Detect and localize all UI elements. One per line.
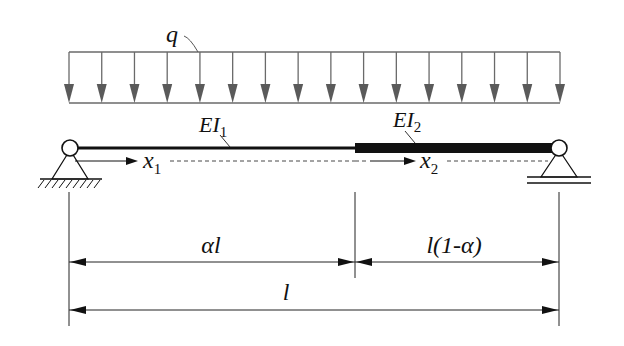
load-arrowhead-icon — [64, 84, 74, 103]
stiffness-label-1: EI1 — [198, 112, 227, 140]
load-arrowhead-icon — [228, 84, 238, 103]
left-hinge-icon — [62, 140, 78, 156]
dim-arrowhead-icon — [356, 258, 372, 266]
distributed-load: q — [64, 21, 565, 103]
length-label-total: l — [283, 279, 290, 305]
load-arrowhead-icon — [555, 84, 565, 103]
load-arrowhead-icon — [490, 84, 500, 103]
load-arrowhead-icon — [293, 84, 303, 103]
x1-label: x1 — [142, 147, 161, 177]
right-hinge-icon — [551, 140, 567, 156]
load-arrowhead-icon — [391, 84, 401, 103]
beam-segment-2 — [355, 143, 557, 153]
length-label-segment-1: αl — [201, 232, 221, 258]
ground-hatch-icon — [38, 180, 100, 188]
load-label-leader — [184, 36, 198, 52]
dim-arrowhead-icon — [542, 306, 558, 314]
dimensions: αl l(1-α) l — [69, 192, 559, 326]
load-arrows — [64, 52, 565, 103]
x2-arrowhead-icon — [404, 157, 416, 165]
dim-arrowhead-icon — [70, 306, 86, 314]
x1-arrowhead-icon — [126, 157, 138, 165]
load-arrowhead-icon — [326, 84, 336, 103]
load-arrowhead-icon — [424, 84, 434, 103]
length-label-segment-2: l(1-α) — [426, 232, 481, 258]
load-arrowhead-icon — [162, 84, 172, 103]
load-arrowhead-icon — [129, 84, 139, 103]
load-arrowhead-icon — [195, 84, 205, 103]
load-arrowhead-icon — [359, 84, 369, 103]
load-label: q — [166, 21, 178, 47]
dim-arrowhead-icon — [542, 258, 558, 266]
load-arrowhead-icon — [97, 84, 107, 103]
dim-arrowhead-icon — [70, 258, 86, 266]
load-arrowhead-icon — [522, 84, 532, 103]
stiffness-label-2: EI2 — [392, 107, 421, 135]
beam: EI1 EI2 x1 x2 — [70, 107, 557, 177]
load-arrowhead-icon — [260, 84, 270, 103]
beam-diagram: q EI1 EI2 x1 x2 — [0, 0, 624, 346]
dim-arrowhead-icon — [338, 258, 354, 266]
load-arrowhead-icon — [457, 84, 467, 103]
